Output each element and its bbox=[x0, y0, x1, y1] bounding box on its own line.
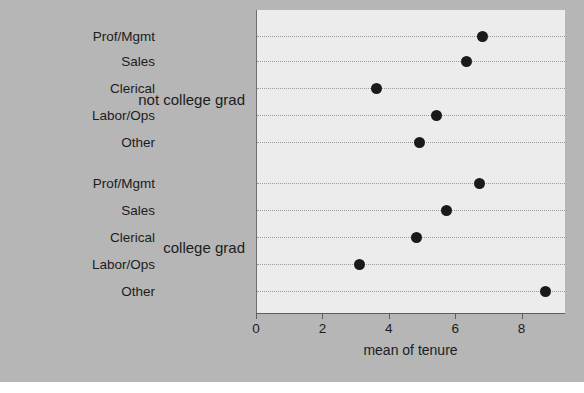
data-point bbox=[431, 110, 442, 121]
gridline bbox=[257, 36, 565, 37]
gridline bbox=[257, 61, 565, 62]
data-point bbox=[474, 178, 485, 189]
x-tick bbox=[322, 313, 323, 319]
x-tick bbox=[455, 313, 456, 319]
x-tick-label: 8 bbox=[502, 321, 542, 336]
gridline bbox=[257, 88, 565, 89]
data-point bbox=[411, 232, 422, 243]
gridline bbox=[257, 210, 565, 211]
data-point bbox=[414, 137, 425, 148]
gridline bbox=[257, 142, 565, 143]
x-axis-line: 0 2 4 6 8 bbox=[256, 313, 565, 314]
gridline bbox=[257, 183, 565, 184]
plot-area: Prof/Mgmt Sales Clerical Labor/Ops Other… bbox=[256, 10, 565, 313]
x-tick-label: 6 bbox=[435, 321, 475, 336]
x-tick bbox=[522, 313, 523, 319]
figure-canvas: Prof/Mgmt Sales Clerical Labor/Ops Other… bbox=[0, 0, 584, 382]
gridline bbox=[257, 264, 565, 265]
group-label-college-grad: college grad bbox=[5, 239, 245, 256]
gridline bbox=[257, 115, 565, 116]
x-tick-label: 2 bbox=[302, 321, 342, 336]
group-axis-labels: not college grad college grad bbox=[0, 20, 245, 323]
group-label-not-college-grad: not college grad bbox=[5, 91, 245, 108]
data-point bbox=[371, 83, 382, 94]
x-tick bbox=[389, 313, 390, 319]
data-point bbox=[540, 286, 551, 297]
data-point bbox=[477, 31, 488, 42]
data-point bbox=[354, 259, 365, 270]
x-tick bbox=[256, 313, 257, 319]
x-tick-label: 4 bbox=[369, 321, 409, 336]
gridline bbox=[257, 291, 565, 292]
x-tick-label: 0 bbox=[236, 321, 276, 336]
data-point bbox=[441, 205, 452, 216]
data-point bbox=[461, 56, 472, 67]
x-axis-title: mean of tenure bbox=[256, 342, 565, 358]
